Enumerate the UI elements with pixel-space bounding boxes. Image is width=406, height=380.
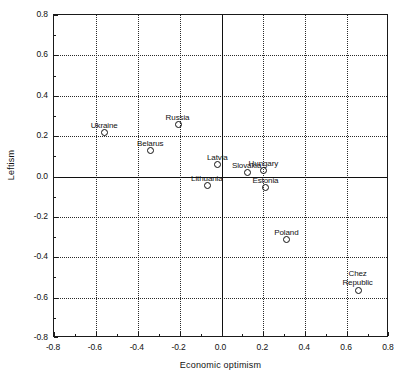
data-point-label: Hungary — [249, 159, 279, 168]
tick-x-major — [388, 332, 389, 336]
data-point-label: Russia — [166, 113, 190, 122]
x-tick-label: 0.6 — [329, 342, 363, 352]
data-point-label: Lithuania — [191, 174, 223, 183]
tick-x-major — [263, 332, 264, 336]
data-point-marker — [262, 184, 269, 191]
gridline-horizontal — [54, 217, 387, 218]
gridline-vertical — [96, 15, 97, 336]
x-tick-label: -0.4 — [120, 342, 154, 352]
data-point-marker — [147, 147, 154, 154]
y-tick-label: 0.6 — [22, 49, 48, 59]
gridline-horizontal — [54, 257, 387, 258]
gridline-vertical — [138, 15, 139, 336]
gridline-vertical — [180, 15, 181, 336]
tick-y-minor — [54, 197, 56, 198]
tick-y-major — [54, 136, 58, 137]
tick-y-minor — [54, 156, 56, 157]
tick-y-major — [54, 177, 58, 178]
x-tick-label: -0.2 — [162, 342, 196, 352]
tick-y-minor — [54, 318, 56, 319]
tick-y-minor — [54, 116, 56, 117]
y-tick-label: 0.0 — [22, 171, 48, 181]
tick-y-minor — [54, 35, 56, 36]
gridline-horizontal — [54, 55, 387, 56]
x-axis-title: Economic optimism — [53, 360, 388, 370]
tick-x-minor — [117, 334, 118, 336]
tick-x-major — [96, 332, 97, 336]
data-point-marker — [175, 121, 182, 128]
y-tick-label: 0.8 — [22, 9, 48, 19]
gridline-vertical — [347, 15, 348, 336]
data-point-label: Ukraine — [91, 121, 118, 130]
x-tick-label: 0.8 — [371, 342, 405, 352]
tick-x-minor — [326, 334, 327, 336]
data-point-marker — [260, 167, 267, 174]
y-tick-label: -0.2 — [22, 211, 48, 221]
tick-y-major — [54, 96, 58, 97]
y-tick-label: -0.4 — [22, 251, 48, 261]
data-point-marker — [283, 236, 290, 243]
scatter-plot-figure: UkraineRussiaBelarusLatviaLithuaniaSlova… — [0, 0, 406, 380]
data-point-label: Poland — [274, 228, 298, 237]
tick-x-major — [305, 332, 306, 336]
tick-y-major — [54, 55, 58, 56]
data-point-label: Belarus — [137, 139, 163, 148]
data-point-marker — [214, 161, 221, 168]
tick-x-minor — [242, 334, 243, 336]
y-tick-label: -0.6 — [22, 292, 48, 302]
tick-y-minor — [54, 237, 56, 238]
x-tick-label: 0.0 — [204, 342, 238, 352]
x-tick-label: 0.4 — [287, 342, 321, 352]
y-tick-label: -0.8 — [22, 332, 48, 342]
data-point-label: Latvia — [207, 153, 228, 162]
tick-y-major — [54, 298, 58, 299]
y-tick-label: 0.2 — [22, 130, 48, 140]
x-tick-label: 0.2 — [245, 342, 279, 352]
data-point-marker — [244, 169, 251, 176]
tick-x-minor — [201, 334, 202, 336]
x-tick-label: -0.8 — [36, 342, 70, 352]
tick-x-major — [347, 332, 348, 336]
tick-x-major — [222, 332, 223, 336]
tick-y-major — [54, 217, 58, 218]
data-point-marker — [204, 182, 211, 189]
data-point-marker — [101, 129, 108, 136]
tick-y-minor — [54, 76, 56, 77]
tick-x-minor — [284, 334, 285, 336]
tick-y-major — [54, 15, 58, 16]
tick-x-minor — [75, 334, 76, 336]
data-point-marker — [355, 287, 362, 294]
tick-x-major — [54, 332, 55, 336]
tick-x-minor — [159, 334, 160, 336]
gridline-horizontal — [54, 96, 387, 97]
tick-x-minor — [368, 334, 369, 336]
gridline-vertical — [305, 15, 306, 336]
y-tick-label: 0.4 — [22, 90, 48, 100]
tick-x-major — [138, 332, 139, 336]
plot-area: UkraineRussiaBelarusLatviaLithuaniaSlova… — [53, 14, 388, 337]
tick-y-major — [54, 337, 58, 338]
data-point-label: ChezRepublic — [342, 269, 372, 287]
tick-x-major — [180, 332, 181, 336]
gridline-horizontal — [54, 298, 387, 299]
data-point-label: Estonia — [252, 176, 278, 185]
gridline-horizontal — [54, 136, 387, 137]
x-tick-label: -0.6 — [78, 342, 112, 352]
y-axis-title: Leftism — [6, 130, 16, 200]
tick-y-minor — [54, 277, 56, 278]
tick-y-major — [54, 257, 58, 258]
